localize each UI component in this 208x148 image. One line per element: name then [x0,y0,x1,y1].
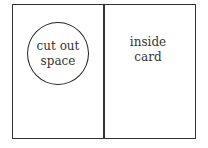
cut-out-label-line-2: space [41,54,76,69]
card-fold-line [103,4,105,139]
inside-card-label-line-1: inside [130,35,166,50]
cut-out-label-line-1: cut out [37,39,80,54]
inside-card-text: inside card [108,35,188,65]
cut-out-circle: cut out space [27,22,89,85]
inside-card-label-line-2: card [134,50,161,65]
